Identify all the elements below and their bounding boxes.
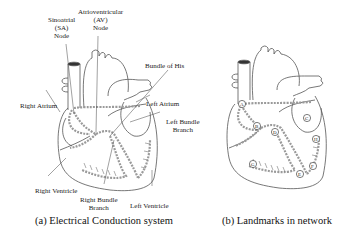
landmark-label-h: H [314, 136, 318, 144]
panel-electrical-conduction: Sinoatrial (SA) Node Atrioventricular (A… [0, 0, 200, 234]
landmark-label-d: D [273, 129, 277, 137]
caption-a: (a) Electrical Conduction system [35, 215, 173, 226]
label-sa-node: Sinoatrial (SA) Node [48, 16, 75, 40]
landmark-label-g: G [251, 161, 255, 169]
label-bundle-of-his: Bundle of His [145, 62, 184, 70]
label-right-bundle-branch: Right Bundle Branch [80, 196, 118, 212]
label-left-atrium: Left Atrium [146, 100, 179, 108]
label-left-ventricle: Left Ventricle [130, 202, 169, 210]
heart-landmarks-diagram [195, 0, 355, 234]
panel-landmarks-network: A B C D E F G H (b) Landmarks in network [195, 0, 355, 234]
landmark-label-b: B [255, 123, 258, 131]
label-right-atrium: Right Atrium [20, 102, 57, 110]
landmark-label-f: F [311, 163, 314, 171]
landmark-label-a: A [240, 101, 244, 109]
landmark-label-e: E [298, 171, 301, 179]
landmark-label-c: C [305, 115, 308, 123]
label-av-node: Atrioventricular (AV) Node [78, 8, 123, 32]
label-right-ventricle: Right Ventricle [35, 187, 77, 195]
caption-b: (b) Landmarks in network [222, 215, 332, 226]
